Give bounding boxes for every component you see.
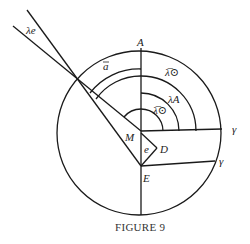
label-M: M bbox=[124, 131, 135, 143]
line-to-m bbox=[13, 26, 141, 131]
figure-9-diagram: λe a A λ̅⊙ λA λ̅⊙ M e D E γ γ FIGURE 9 bbox=[0, 0, 250, 244]
label-lambda-e: λe bbox=[25, 24, 36, 36]
label-lambda-a: λA bbox=[167, 93, 180, 105]
label-D: D bbox=[159, 143, 168, 155]
label-e: e bbox=[144, 143, 149, 155]
arc-a-bar bbox=[90, 69, 141, 93]
arc-lambda-sun-outer bbox=[96, 76, 196, 131]
label-lambda-sun-inner: λ̅⊙ bbox=[152, 104, 167, 116]
label-gamma-lower: γ bbox=[219, 155, 224, 167]
label-lambda-sun-outer: λ̅⊙ bbox=[164, 66, 179, 78]
line-e-gamma bbox=[141, 161, 215, 166]
label-A: A bbox=[136, 36, 144, 48]
figure-caption: FIGURE 9 bbox=[115, 221, 166, 233]
line-m-gamma bbox=[141, 129, 222, 131]
label-E: E bbox=[142, 172, 150, 184]
line-lambda-e-to-e bbox=[27, 10, 141, 166]
label-gamma-upper: γ bbox=[232, 123, 237, 135]
